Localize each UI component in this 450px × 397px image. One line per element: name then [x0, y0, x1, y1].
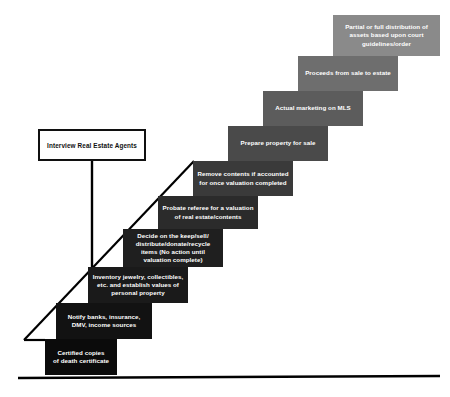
staircase-step-9[interactable]: Proceeds from sale to estate — [298, 56, 398, 91]
staircase-step-4[interactable]: Decide on the keep/sell/ distribute/dona… — [123, 229, 223, 267]
callout-box-label: Interview Real Estate Agents — [47, 142, 137, 149]
staircase-step-3[interactable]: Inventory jewelry, collectibles, etc. an… — [88, 267, 188, 303]
staircase-step-5[interactable]: Probate referee for a valuation of real … — [158, 196, 258, 229]
staircase-step-6[interactable]: Remove contents if accounted for once va… — [193, 161, 293, 196]
staircase-step-8[interactable]: Actual marketing on MLS — [263, 91, 363, 126]
staircase-step-1[interactable]: Certified copies of death certificate — [45, 339, 117, 375]
staircase-step-10[interactable]: Partial or full distribution of assets b… — [333, 15, 440, 56]
staircase-diagram: Certified copies of death certificateNot… — [0, 0, 450, 397]
callout-box-interview-real-estate-agents[interactable]: Interview Real Estate Agents — [38, 129, 146, 161]
staircase-step-2[interactable]: Notify banks, insurance, DMV, income sou… — [56, 303, 152, 339]
staircase-step-7[interactable]: Prepare property for sale — [228, 126, 328, 161]
baseline-rule — [18, 376, 440, 378]
